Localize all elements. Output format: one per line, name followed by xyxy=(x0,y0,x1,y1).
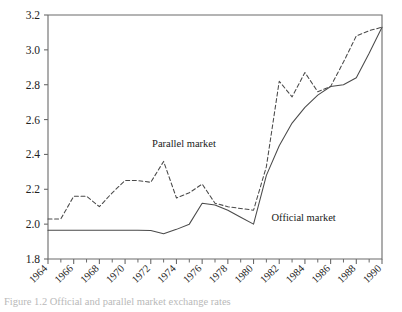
figure-container: 1.82.02.22.42.62.83.03.21964196619681970… xyxy=(0,0,402,312)
x-axis-tick-label: 1990 xyxy=(361,263,384,286)
x-axis-tick-label: 1986 xyxy=(309,263,332,286)
figure-caption: Figure 1.2 Official and parallel market … xyxy=(4,296,398,307)
exchange-rate-line-chart: 1.82.02.22.42.62.83.03.21964196619681970… xyxy=(0,0,402,312)
y-axis-tick-label: 2.0 xyxy=(26,218,41,230)
x-axis-tick-label: 1980 xyxy=(232,263,255,286)
y-axis-tick-label: 3.0 xyxy=(26,44,41,56)
x-axis-tick-label: 1984 xyxy=(284,262,307,285)
y-axis-tick-label: 1.8 xyxy=(26,253,41,265)
x-axis-tick-label: 1964 xyxy=(27,262,50,285)
series-layer xyxy=(48,27,382,234)
x-axis-tick-label: 1970 xyxy=(104,263,127,286)
y-axis-tick-label: 2.4 xyxy=(26,148,41,160)
series-annotations: Parallel marketOfficial market xyxy=(152,138,336,222)
y-axis-tick-label: 2.8 xyxy=(26,79,41,91)
series-line-parallel-market xyxy=(48,27,382,219)
x-axis-tick-label: 1982 xyxy=(258,263,281,286)
x-axis-tick-label: 1966 xyxy=(52,263,75,286)
y-axis-tick-label: 2.6 xyxy=(26,114,41,126)
x-axis-tick-label: 1968 xyxy=(78,263,101,286)
series-label-official-market: Official market xyxy=(272,212,336,223)
x-axis-tick-label: 1974 xyxy=(155,262,178,285)
x-axis-tick-label: 1972 xyxy=(130,263,153,286)
series-label-parallel-market: Parallel market xyxy=(152,138,216,149)
x-axis-tick-label: 1976 xyxy=(181,263,204,286)
y-axis-tick-label: 2.2 xyxy=(26,183,41,195)
y-axis-tick-label: 3.2 xyxy=(26,9,41,21)
x-axis-tick-label: 1978 xyxy=(207,263,230,286)
x-axis-tick-label: 1988 xyxy=(335,263,358,286)
